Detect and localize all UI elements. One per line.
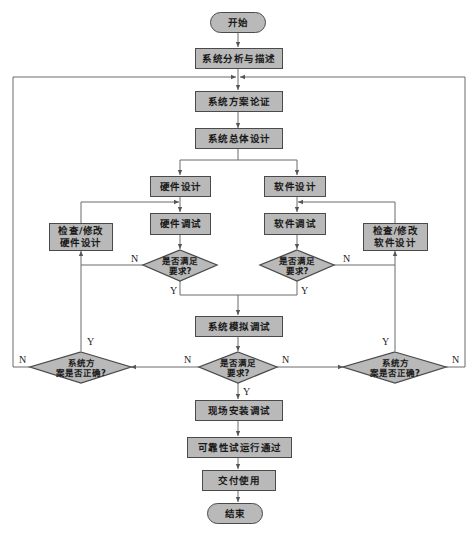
scheme-right-yes-label: Y (382, 336, 389, 347)
analysis-box: 系统分析与描述 (195, 48, 283, 69)
sw-check-yes-label: Y (301, 285, 308, 296)
scheme-left-no-label: N (19, 354, 26, 365)
sim-debug-box: 系统模拟调试 (195, 316, 283, 337)
scheme-ok-right-label: 系统方 案是否正确? (370, 358, 420, 378)
sw-design-box: 软件设计 (264, 176, 326, 197)
hw-debug-box: 硬件调试 (150, 213, 211, 235)
sw-fix-box: 检查/修改 软件设计 (363, 223, 428, 251)
start-terminal: 开始 (210, 12, 266, 33)
sw-check-no-label: N (343, 253, 350, 264)
hw-check-no-label: N (131, 253, 138, 264)
reliability-box: 可靠性试运行通过 (187, 437, 292, 458)
delivery-box: 交付使用 (202, 470, 276, 491)
onsite-install-box: 现场安装调试 (195, 400, 283, 421)
hw-design-box: 硬件设计 (150, 176, 211, 197)
hw-fix-box: 检查/修改 硬件设计 (49, 223, 113, 251)
sw-check-label: 是否满足 要求? (279, 256, 315, 276)
end-terminal: 结束 (207, 503, 263, 524)
sys-check-label: 是否满足 要求? (220, 358, 256, 378)
sys-check-yes-label: Y (243, 386, 250, 397)
hw-check-label: 是否满足 要求? (162, 256, 198, 276)
sys-check-no-left-label: N (184, 354, 191, 365)
sys-check-no-right-label: N (282, 354, 289, 365)
scheme-right-no-label: N (452, 354, 459, 365)
overall-design-box: 系统总体设计 (195, 128, 283, 149)
scheme-verify-box: 系统方案论证 (195, 91, 283, 112)
hw-check-yes-label: Y (170, 285, 177, 296)
scheme-left-yes-label: Y (87, 336, 94, 347)
scheme-ok-left-label: 系统方 案是否正确? (56, 358, 106, 378)
sw-debug-box: 软件调试 (264, 213, 326, 235)
